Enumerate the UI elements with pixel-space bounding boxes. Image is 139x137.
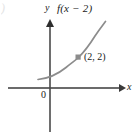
- x-axis-label: x: [127, 82, 131, 92]
- edge-artifact: ): [1, 2, 9, 16]
- origin-label: 0: [41, 90, 46, 100]
- x-axis-arrowhead: [119, 84, 126, 92]
- function-label: f(x − 2): [57, 3, 92, 14]
- y-axis-label: y: [45, 3, 49, 13]
- point-marker: [76, 55, 81, 60]
- y-axis-arrowhead: [46, 19, 54, 27]
- figure-container: ) f(x − 2) y x 0 (2, 2): [0, 0, 139, 137]
- point-coordinate-label: (2, 2): [84, 52, 106, 62]
- plot-svg: [0, 0, 139, 137]
